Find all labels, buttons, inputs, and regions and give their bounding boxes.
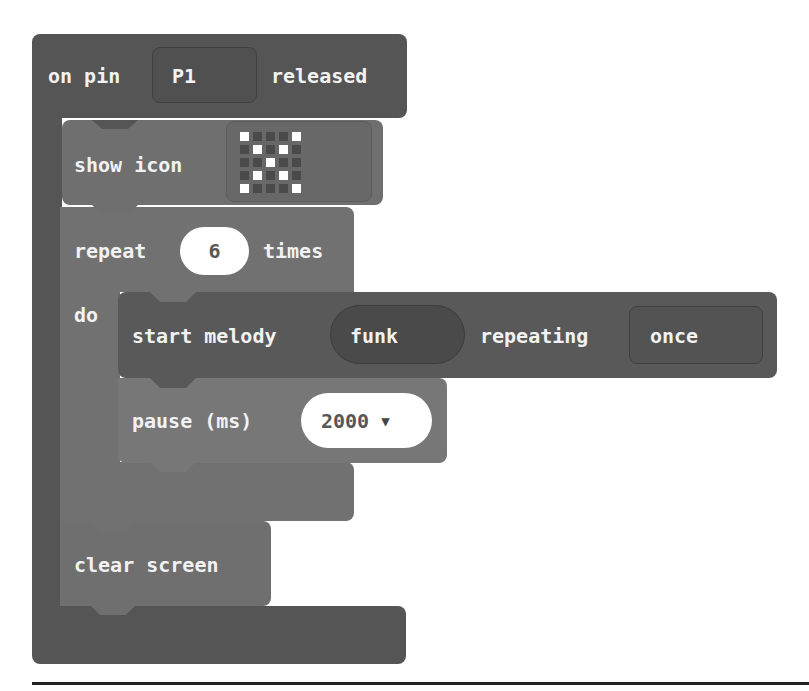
- pause-duration-dropdown[interactable]: 2000 ▼: [301, 393, 432, 448]
- repeat-count-input[interactable]: 6: [180, 227, 249, 275]
- led-off: [240, 171, 249, 180]
- repeat-suffix-label: times: [263, 241, 323, 261]
- led-off: [240, 145, 249, 154]
- event-block-arm: [32, 110, 62, 610]
- repeat-prefix-label: repeat: [74, 241, 146, 261]
- show-icon-label: show icon: [74, 155, 182, 175]
- led-off: [292, 145, 301, 154]
- led-on: [253, 145, 262, 154]
- led-on: [240, 184, 249, 193]
- event-block-footer: [32, 606, 406, 664]
- clear-screen-label: clear screen: [74, 555, 219, 575]
- do-label: do: [74, 305, 98, 325]
- led-off: [292, 171, 301, 180]
- pin-value: P1: [172, 66, 196, 86]
- dropdown-arrow-icon: ▼: [381, 413, 389, 429]
- led-off: [266, 184, 275, 193]
- led-off: [266, 132, 275, 141]
- melody-middle-label: repeating: [480, 326, 588, 346]
- melody-value: funk: [350, 326, 398, 346]
- led-on: [279, 171, 288, 180]
- repeat-block-footer: [60, 462, 354, 521]
- led-on: [292, 184, 301, 193]
- led-on: [253, 171, 262, 180]
- melody-prefix-label: start melody: [132, 326, 277, 346]
- led-off: [253, 132, 262, 141]
- led-off: [253, 184, 262, 193]
- led-off: [292, 158, 301, 167]
- divider-line: [32, 682, 809, 685]
- pause-label: pause (ms): [132, 411, 252, 431]
- led-on: [240, 132, 249, 141]
- pause-value: 2000: [321, 409, 369, 433]
- led-off: [279, 158, 288, 167]
- pin-dropdown[interactable]: [152, 47, 257, 103]
- led-off: [240, 158, 249, 167]
- led-off: [266, 171, 275, 180]
- event-suffix-label: released: [271, 66, 367, 86]
- led-off: [279, 184, 288, 193]
- led-on: [279, 145, 288, 154]
- led-off: [279, 132, 288, 141]
- x-pattern-icon: [240, 132, 306, 198]
- led-off: [253, 158, 262, 167]
- led-on: [292, 132, 301, 141]
- led-off: [266, 145, 275, 154]
- led-on: [266, 158, 275, 167]
- repeat-option-value: once: [650, 326, 698, 346]
- event-prefix-label: on pin: [48, 66, 120, 86]
